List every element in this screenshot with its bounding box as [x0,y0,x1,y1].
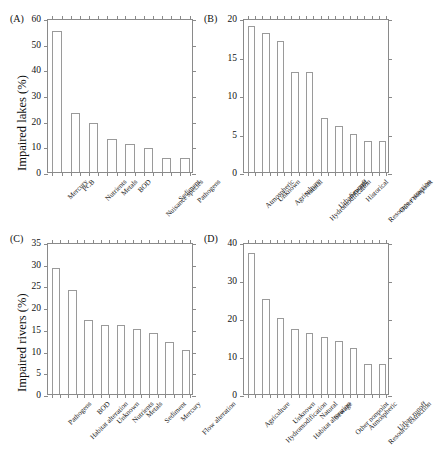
bar [144,148,153,172]
x-tick-mirror [77,240,78,244]
x-tick-mirror [89,16,90,20]
bar [262,299,270,394]
y-tick-label: 35 [13,238,41,248]
y-tick-label: 10 [13,347,41,357]
x-tick-mirror [386,16,387,20]
bar [248,26,256,172]
x-tick [117,172,118,176]
y-tick-label: 25 [13,281,41,291]
y-tick-label: 10 [209,352,237,362]
x-tick [109,394,110,398]
y-tick-mirror [192,174,196,175]
x-tick [93,394,94,398]
x-tick-mirror [306,240,307,244]
x-tick [248,394,249,398]
panel-c-plot-area [47,243,193,395]
x-tick [262,172,263,176]
y-tick-mirror [388,320,392,321]
x-category-label: Agriculture [263,400,292,429]
x-tick [372,172,373,176]
y-tick [44,123,48,124]
y-tick-mirror [388,396,392,397]
x-tick-mirror [135,16,136,20]
bar [291,329,299,394]
x-tick-mirror [117,16,118,20]
x-tick-mirror [248,16,249,20]
y-tick [44,374,48,375]
x-tick-mirror [62,16,63,20]
x-tick-mirror [379,16,380,20]
x-tick [141,394,142,398]
bar [107,139,116,172]
x-tick [125,172,126,176]
bar [379,141,387,172]
y-tick-label: 60 [13,14,41,24]
y-tick-label: 10 [209,91,237,101]
y-tick-mirror [192,287,196,288]
x-tick-mirror [357,16,358,20]
x-tick [306,394,307,398]
x-tick [313,394,314,398]
x-tick [60,394,61,398]
y-tick-mirror [388,282,392,283]
y-tick-label: 40 [13,65,41,75]
x-tick [144,172,145,176]
y-tick [44,353,48,354]
bar [321,337,329,394]
x-tick [386,394,387,398]
bar [165,342,173,394]
x-tick [89,172,90,176]
bar [52,268,60,394]
y-tick-mirror [192,331,196,332]
x-tick [190,172,191,176]
bar [101,325,109,394]
y-tick [44,97,48,98]
y-tick-label: 40 [209,238,237,248]
bar [306,333,314,394]
x-tick [291,172,292,176]
x-tick-mirror [165,240,166,244]
panel-d-plot-area [243,243,389,395]
y-tick-label: 10 [13,142,41,152]
x-tick [284,172,285,176]
y-tick-label: 50 [13,40,41,50]
x-tick [372,394,373,398]
x-tick-mirror [80,16,81,20]
y-tick-label: 0 [13,390,41,400]
y-tick-mirror [192,353,196,354]
y-tick [240,20,244,21]
x-tick [133,394,134,398]
x-tick-mirror [291,16,292,20]
x-tick-mirror [141,240,142,244]
y-tick-mirror [192,374,196,375]
x-category-label: Urban runoff [396,400,428,432]
bar [335,126,343,172]
x-tick [277,394,278,398]
bar [117,325,125,394]
panel-b-plot-area [243,19,389,173]
x-tick-mirror [174,240,175,244]
x-tick-mirror [277,16,278,20]
y-tick-label: 30 [13,260,41,270]
y-tick-mirror [388,136,392,137]
x-tick [162,172,163,176]
x-tick-mirror [372,16,373,20]
x-tick [171,172,172,176]
y-tick-mirror [192,123,196,124]
x-tick-mirror [284,16,285,20]
x-tick [174,394,175,398]
bar [364,364,372,394]
x-tick-mirror [117,240,118,244]
x-tick [182,394,183,398]
y-tick-mirror [192,71,196,72]
x-tick-mirror [328,240,329,244]
x-tick [291,394,292,398]
x-tick [262,394,263,398]
bar [248,253,256,394]
y-tick [44,266,48,267]
y-tick [44,309,48,310]
x-tick-mirror [101,240,102,244]
x-tick-mirror [343,16,344,20]
bar [162,158,171,172]
